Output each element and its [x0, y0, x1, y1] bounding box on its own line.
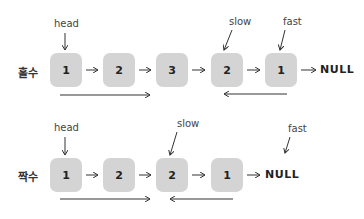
odd-slow-label: slow [229, 16, 251, 27]
odd-node-1: 1 [50, 53, 82, 87]
even-case-label: 짝수 [18, 168, 38, 184]
odd-fast-label: fast [283, 16, 302, 27]
even-node-1: 1 [50, 158, 82, 192]
odd-case-label: 홀수 [18, 64, 38, 80]
even-null-label: NULL [265, 168, 299, 181]
odd-head-label: head [54, 18, 79, 29]
odd-node-3: 3 [156, 53, 188, 87]
even-fast-label: fast [288, 123, 307, 134]
even-slow-label: slow [177, 118, 199, 129]
even-node-4: 1 [211, 158, 243, 192]
even-head-label: head [54, 122, 79, 133]
odd-node-5: 1 [265, 53, 297, 87]
odd-node-2: 2 [103, 53, 135, 87]
even-node-2: 2 [103, 158, 135, 192]
odd-node-4: 2 [211, 53, 243, 87]
even-node-3: 2 [156, 158, 188, 192]
odd-null-label: NULL [320, 63, 354, 76]
